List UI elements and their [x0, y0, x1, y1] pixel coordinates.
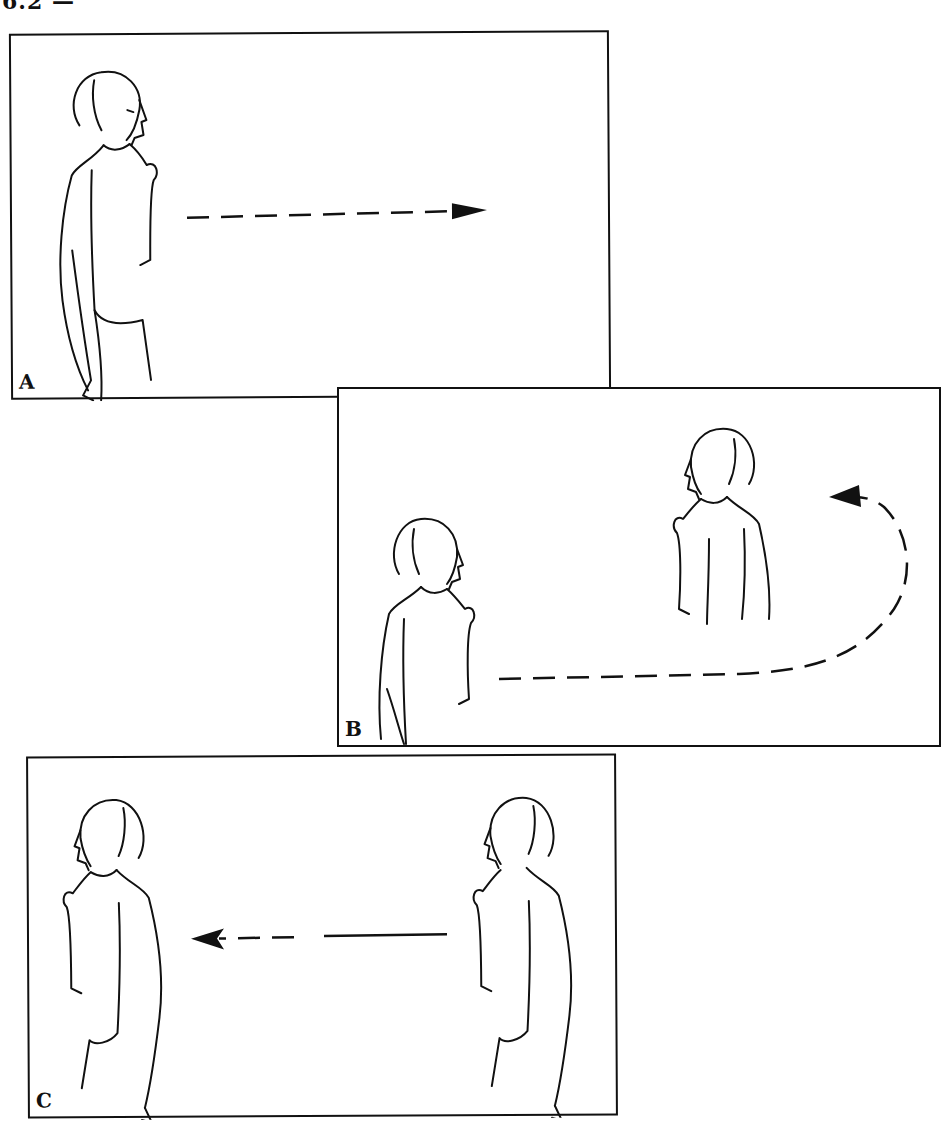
arrowhead-right-icon	[452, 203, 487, 219]
panel-a-label: A	[19, 370, 35, 394]
woman-figure-left-icon	[379, 519, 474, 744]
panel-b-illustration	[339, 389, 943, 749]
woman-figure-right-icon	[674, 429, 770, 624]
panel-b: B	[337, 387, 941, 747]
figure-header-fragment: 6.2 —	[2, 0, 75, 14]
panel-a-illustration	[11, 32, 613, 402]
panel-a: A	[9, 30, 611, 400]
panel-c: C	[26, 753, 618, 1118]
panel-b-label: B	[345, 717, 362, 741]
arrow-right-path	[187, 211, 457, 218]
woman-figure-right-icon	[473, 798, 572, 1121]
arrow-left-solid-segment	[324, 934, 447, 936]
arrowhead-curved-icon	[829, 485, 861, 507]
panel-c-illustration	[28, 755, 620, 1120]
woman-figure-left-icon	[63, 800, 162, 1121]
panel-c-label: C	[36, 1088, 52, 1112]
arrow-left-dashed-segment	[219, 937, 294, 938]
curved-return-path	[499, 497, 907, 679]
woman-figure-icon	[59, 71, 158, 400]
